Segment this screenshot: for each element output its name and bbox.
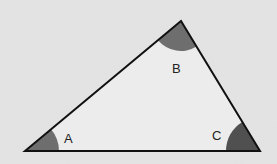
triangle-svg: A B C bbox=[0, 0, 277, 164]
label-angle-a: A bbox=[64, 131, 73, 146]
triangle-diagram: A B C bbox=[0, 0, 277, 164]
label-angle-b: B bbox=[172, 61, 181, 76]
label-angle-c: C bbox=[212, 128, 221, 143]
